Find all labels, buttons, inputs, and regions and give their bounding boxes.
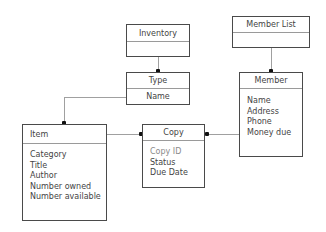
attr-number-owned: Number owned bbox=[30, 182, 106, 193]
class-item-attributes: Category Title Author Number owned Numbe… bbox=[23, 144, 106, 203]
class-member-title: Member bbox=[240, 73, 302, 89]
attr-category: Category bbox=[30, 150, 106, 161]
attr-title: Title bbox=[30, 161, 106, 172]
connector-type-item-h bbox=[64, 97, 126, 98]
class-inventory: Inventory bbox=[126, 24, 190, 57]
class-type: Type Name bbox=[126, 72, 190, 105]
attr-number-available: Number available bbox=[30, 192, 106, 203]
class-type-attr-name: Name bbox=[127, 89, 189, 104]
class-member-attributes: Name Address Phone Money due bbox=[240, 89, 302, 138]
connector-copy-member bbox=[205, 134, 239, 135]
attr-address: Address bbox=[247, 107, 302, 118]
connector-type-item-v bbox=[64, 97, 65, 124]
class-copy: Copy Copy ID Status Due Date bbox=[142, 124, 205, 188]
attr-phone: Phone bbox=[247, 117, 302, 128]
connector-dot-copy-right bbox=[205, 132, 209, 136]
attr-status: Status bbox=[150, 158, 204, 169]
class-member: Member Name Address Phone Money due bbox=[239, 72, 303, 157]
class-inventory-title: Inventory bbox=[127, 25, 189, 42]
class-copy-title: Copy bbox=[143, 125, 204, 141]
class-member-list-title: Member List bbox=[233, 17, 309, 33]
class-type-title: Type bbox=[127, 73, 189, 89]
attr-name: Name bbox=[247, 96, 302, 107]
class-copy-attributes: Copy ID Status Due Date bbox=[143, 141, 204, 179]
class-item: Item Category Title Author Number owned … bbox=[22, 124, 107, 221]
attr-money-due: Money due bbox=[247, 128, 302, 139]
connector-item-copy bbox=[107, 134, 142, 135]
attr-due-date: Due Date bbox=[150, 168, 204, 179]
attr-copy-id: Copy ID bbox=[150, 147, 204, 158]
attr-author: Author bbox=[30, 171, 106, 182]
class-item-title: Item bbox=[23, 125, 106, 144]
class-member-list: Member List bbox=[232, 16, 310, 48]
